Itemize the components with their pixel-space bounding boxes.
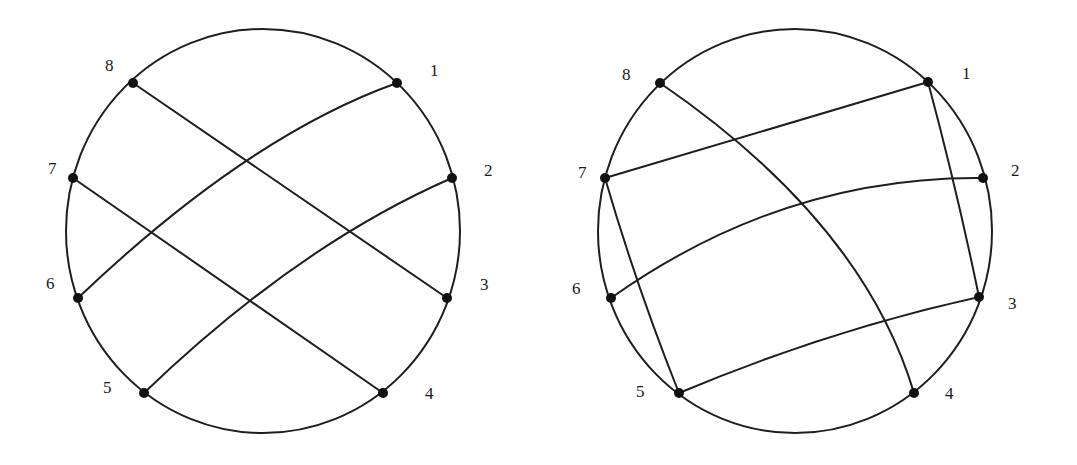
chord-7-5 (605, 178, 679, 393)
node-label-3: 3 (480, 275, 489, 294)
node-8 (128, 78, 138, 88)
chord-2-5 (144, 178, 452, 393)
node-5 (674, 388, 684, 398)
node-8 (655, 78, 665, 88)
node-label-7: 7 (578, 163, 587, 182)
left-chord-diagram: 12345678 (46, 29, 493, 433)
node-label-6: 6 (46, 274, 55, 293)
chord-group (605, 82, 983, 393)
circle-outline (598, 29, 992, 433)
node-label-1: 1 (430, 61, 439, 80)
node-label-2: 2 (1011, 161, 1020, 180)
node-4 (378, 388, 388, 398)
node-label-4: 4 (425, 384, 434, 403)
circle-outline (66, 29, 460, 433)
node-label-3: 3 (1008, 294, 1017, 313)
node-label-8: 8 (105, 56, 114, 75)
node-3 (974, 292, 984, 302)
node-label-5: 5 (636, 382, 645, 401)
chord-8-4 (660, 83, 914, 393)
node-label-2: 2 (484, 161, 493, 180)
node-2 (447, 173, 457, 183)
node-6 (606, 293, 616, 303)
node-1 (923, 77, 933, 87)
node-label-7: 7 (48, 159, 57, 178)
node-7 (600, 173, 610, 183)
chord-group (73, 83, 452, 393)
right-chord-diagram: 12345678 (572, 29, 1020, 433)
node-label-5: 5 (103, 378, 112, 397)
node-6 (73, 293, 83, 303)
chord-3-5 (679, 297, 979, 393)
node-group (68, 78, 457, 398)
chord-diagrams-canvas: 12345678 12345678 (0, 0, 1077, 465)
node-1 (392, 78, 402, 88)
node-2 (978, 173, 988, 183)
node-label-4: 4 (945, 384, 954, 403)
chord-1-7 (605, 82, 928, 178)
chord-1-6 (78, 83, 397, 298)
node-label-1: 1 (962, 64, 971, 83)
chord-1-3 (928, 82, 979, 297)
node-label-6: 6 (572, 279, 581, 298)
node-7 (68, 173, 78, 183)
node-4 (909, 388, 919, 398)
node-3 (442, 293, 452, 303)
node-5 (139, 388, 149, 398)
chord-2-6 (611, 178, 983, 298)
label-group: 12345678 (46, 56, 493, 403)
chord-8-3 (133, 83, 447, 298)
node-label-8: 8 (622, 65, 631, 84)
chord-7-4 (73, 178, 383, 393)
